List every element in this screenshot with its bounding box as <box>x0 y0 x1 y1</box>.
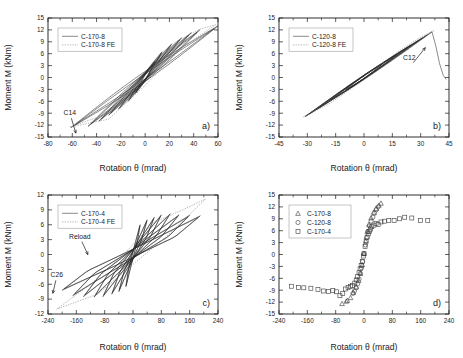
hysteresis-loop <box>112 217 155 294</box>
x-tick-label: -160 <box>70 317 83 324</box>
x-tick-label: 240 <box>213 317 224 324</box>
legend-label: C-170-8 <box>307 210 331 217</box>
y-tick-label: -6 <box>38 98 44 105</box>
hysteresis-loop <box>332 55 395 99</box>
y-tick-label: -3 <box>38 86 44 93</box>
annotation: Reload <box>69 233 91 255</box>
data-point <box>316 287 320 291</box>
x-tick-label: 0 <box>362 140 366 147</box>
y-tick-label: 6 <box>271 50 275 57</box>
y-tick-label: -12 <box>266 298 276 305</box>
x-tick-label: 20 <box>166 140 174 147</box>
data-point <box>327 289 331 293</box>
x-tick-label: 40 <box>190 140 198 147</box>
annotation-label: C14 <box>64 109 77 116</box>
y-tick-label: 3 <box>40 62 44 69</box>
y-tick-label: -12 <box>35 310 45 317</box>
data-point <box>309 286 313 290</box>
data-point <box>387 218 391 222</box>
data-point <box>341 291 345 295</box>
data-point <box>397 217 401 221</box>
figure-root: -80-60-40-200204060-15-12-9-6-303691215R… <box>0 0 463 358</box>
data-point <box>392 218 396 222</box>
data-point <box>296 285 300 289</box>
panel-d: -240-160-80080160240-15-12-9-6-303691215… <box>231 179 463 358</box>
y-axis-title: Moment M (kNm) <box>3 44 13 111</box>
y-tick-label: -3 <box>38 266 44 273</box>
annotation-label: Reload <box>69 233 91 240</box>
panel-c: -240-160-80080160240-12-9-6-3036912Rotat… <box>0 179 232 358</box>
x-tick-label: 0 <box>131 317 135 324</box>
panel-tag: b) <box>433 121 441 131</box>
legend-label: C-170-4 FE <box>81 218 116 225</box>
x-tick-label: -20 <box>116 140 126 147</box>
annotation: C14 <box>64 109 77 133</box>
y-tick-label: -6 <box>269 275 275 282</box>
legend-label: C-120-8 <box>307 219 331 226</box>
panel-a: -80-60-40-200204060-15-12-9-6-303691215R… <box>0 2 232 179</box>
y-tick-label: -12 <box>266 121 276 128</box>
data-point <box>321 289 325 293</box>
legend-label: C-170-4 <box>307 228 331 235</box>
data-point <box>344 287 348 291</box>
x-tick-label: 0 <box>143 140 147 147</box>
x-tick-label: 80 <box>158 317 166 324</box>
fracture-branch <box>432 32 446 80</box>
y-axis-title: Moment M (kNm) <box>234 44 244 111</box>
legend: C-120-8C-120-8 FE <box>289 28 353 51</box>
x-axis-title: Rotation θ (mrad) <box>100 342 167 352</box>
annotation-arrow <box>82 242 88 255</box>
y-tick-label: 6 <box>271 227 275 234</box>
panel-b: -45-30-150153045-15-12-9-6-303691215Rota… <box>231 2 463 179</box>
legend: C-170-8C-170-8 FE <box>58 28 122 51</box>
x-tick-label: 15 <box>389 140 397 147</box>
data-point <box>379 201 384 205</box>
y-tick-label: -9 <box>269 287 275 294</box>
panel-tag: c) <box>203 298 211 308</box>
x-tick-label: 0 <box>362 317 366 324</box>
x-axis-title: Rotation θ (mrad) <box>331 342 398 352</box>
x-tick-label: 160 <box>415 317 426 324</box>
annotation: C26 <box>51 271 64 293</box>
y-tick-label: 6 <box>40 221 44 228</box>
x-tick-label: -240 <box>42 317 55 324</box>
x-tick-label: 60 <box>214 140 222 147</box>
data-point <box>371 210 376 214</box>
hysteresis-loop <box>330 54 398 101</box>
y-tick-label: 15 <box>268 14 276 21</box>
legend-label: C-120-8 FE <box>312 41 347 48</box>
x-axis-title: Rotation θ (mrad) <box>331 163 398 173</box>
y-tick-label: 9 <box>271 215 275 222</box>
y-tick-label: 12 <box>37 26 45 33</box>
legend-label: C-120-8 <box>312 33 336 40</box>
x-tick-label: 30 <box>417 140 425 147</box>
x-tick-label: -80 <box>43 140 53 147</box>
data-point <box>338 294 342 298</box>
y-tick-label: -9 <box>269 110 275 117</box>
x-tick-label: -15 <box>331 140 341 147</box>
data-point <box>426 218 430 222</box>
data-point <box>410 216 414 220</box>
y-tick-label: 0 <box>40 251 44 258</box>
panel-tag: a) <box>202 121 210 131</box>
annotation-label: C12 <box>403 54 416 61</box>
y-tick-label: 15 <box>268 191 276 198</box>
data-point <box>403 215 407 219</box>
y-tick-label: -9 <box>38 110 44 117</box>
y-tick-label: -3 <box>269 263 275 270</box>
x-tick-label: -80 <box>331 317 341 324</box>
x-tick-label: -160 <box>301 317 314 324</box>
hysteresis-loop <box>345 64 383 91</box>
y-tick-label: -15 <box>266 133 276 140</box>
y-axis-title: Moment M (kNm) <box>234 221 244 288</box>
y-tick-label: 0 <box>271 74 275 81</box>
data-point <box>289 284 293 288</box>
y-tick-label: -6 <box>269 98 275 105</box>
x-axis-title: Rotation θ (mrad) <box>100 163 167 173</box>
x-tick-label: -80 <box>100 317 110 324</box>
y-tick-label: 9 <box>40 38 44 45</box>
x-tick-label: 160 <box>184 317 195 324</box>
y-tick-label: 6 <box>40 50 44 57</box>
legend-label: C-170-4 <box>81 210 105 217</box>
y-tick-label: 9 <box>40 206 44 213</box>
